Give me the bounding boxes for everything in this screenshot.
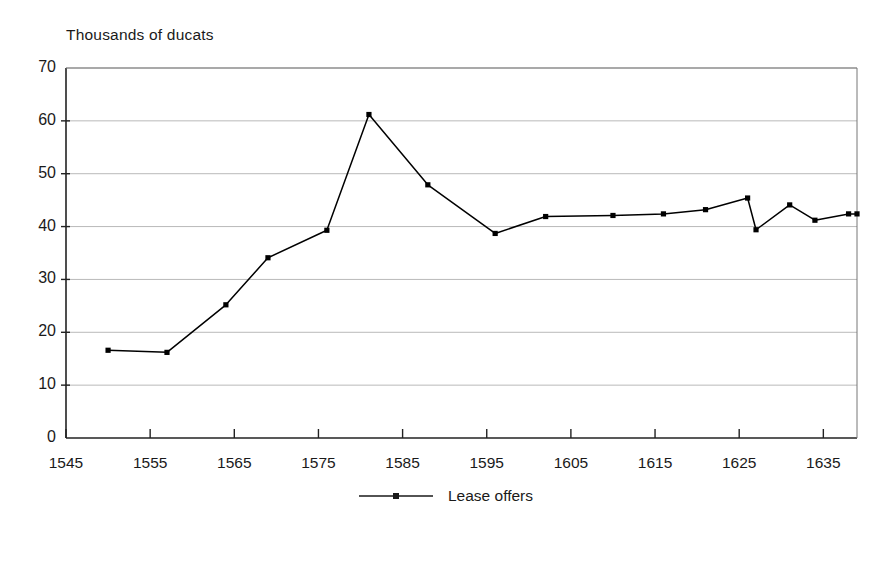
y-tick-label: 40 xyxy=(10,217,56,235)
series-line-lease-offers xyxy=(108,115,857,353)
x-tick-label: 1595 xyxy=(455,454,519,472)
x-tick-label: 1545 xyxy=(34,454,98,472)
y-tick-label: 0 xyxy=(10,428,56,446)
legend-swatch-lease-offers xyxy=(357,489,435,503)
series-markers-lease-offers xyxy=(105,112,859,355)
y-tick-label: 50 xyxy=(10,164,56,182)
x-tick-label: 1585 xyxy=(371,454,435,472)
x-tick-label: 1635 xyxy=(791,454,855,472)
axis-frame xyxy=(66,68,857,438)
x-tick-label: 1605 xyxy=(539,454,603,472)
legend-label-lease-offers: Lease offers xyxy=(448,487,533,505)
y-tick-label: 30 xyxy=(10,269,56,287)
y-tick-label: 20 xyxy=(10,322,56,340)
chart-legend: Lease offers xyxy=(0,487,890,505)
x-tick-label: 1565 xyxy=(202,454,266,472)
lease-offers-line-chart: Thousands of ducats 010203040506070 1545… xyxy=(0,0,890,573)
x-tick-label: 1625 xyxy=(707,454,771,472)
y-tick-label: 60 xyxy=(10,111,56,129)
y-tick-label: 70 xyxy=(10,58,56,76)
y-tick-label: 10 xyxy=(10,375,56,393)
x-tick-label: 1615 xyxy=(623,454,687,472)
x-tick-label: 1555 xyxy=(118,454,182,472)
x-tick-label: 1575 xyxy=(286,454,350,472)
